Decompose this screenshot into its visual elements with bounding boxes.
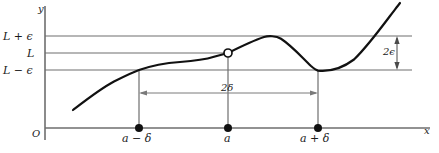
level-label-lower-bound: L − ϵ [3,65,33,76]
y-axis-label: y [38,4,44,14]
measure-two-delta-arrowhead-right [310,90,318,95]
level-label-limit: L [27,48,34,59]
function-curve [73,3,400,110]
measure-two-epsilon-arrowhead-bottom [394,62,399,70]
measure-two-epsilon-arrowhead-top [394,36,399,44]
figure-canvas [0,0,439,153]
x-axis-label: x [424,126,430,136]
open-point-at-a [224,49,232,57]
level-label-upper-bound: L + ϵ [3,31,33,42]
axis-dot-a-minus-delta [135,124,143,132]
measure-label-two-epsilon: 2ϵ [383,47,395,57]
origin-label: O [32,129,40,139]
x-tick-label-a: a [224,133,231,144]
x-tick-label-a-minus-delta: a − δ [122,133,151,144]
axis-dot-a-plus-delta [314,124,322,132]
measure-two-epsilon [394,36,399,70]
measure-two-delta-arrowhead-left [139,90,147,95]
measure-label-two-delta: 2δ [221,83,233,93]
limit-definition-figure: y x O L + ϵ L L − ϵ a − δ a a + δ 2δ 2ϵ [0,0,439,153]
x-tick-label-a-plus-delta: a + δ [300,133,329,144]
axis-dot-a [224,124,232,132]
